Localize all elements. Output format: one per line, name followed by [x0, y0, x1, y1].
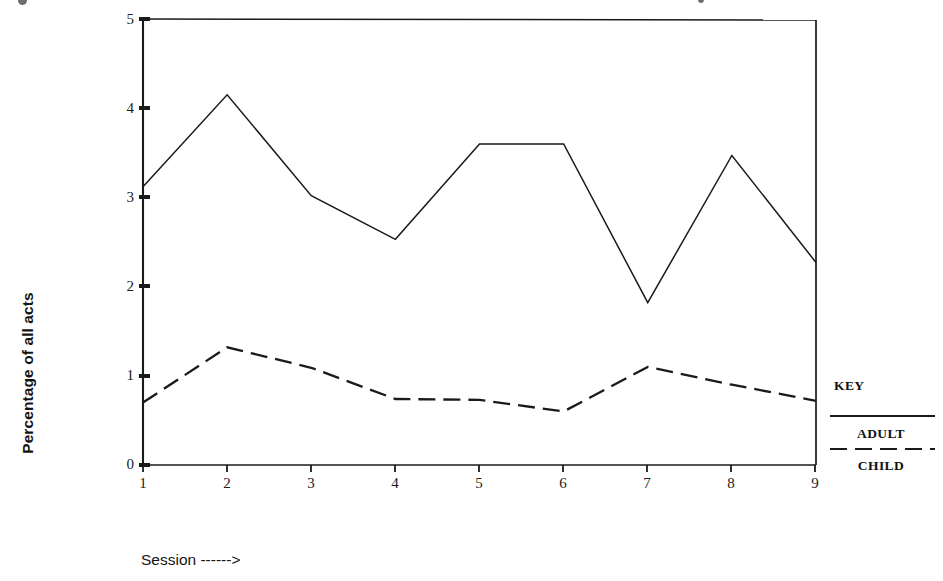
axis-frame: [143, 19, 816, 465]
series-line-child: [143, 347, 816, 411]
plot-top-border: [143, 19, 816, 20]
legend-title: KEY: [834, 378, 864, 394]
plot-area: [0, 0, 943, 581]
legend: KEY ADULT CHILD: [826, 370, 943, 482]
x-axis-ticks: [143, 465, 815, 472]
chart-figure: Percentage of all acts Session ------> 5…: [0, 0, 943, 581]
legend-swatch-adult-solid-line: [830, 415, 935, 417]
legend-swatch-child-dashed-line: [830, 448, 935, 450]
legend-label-adult: ADULT: [826, 426, 936, 442]
series-line-adult: [143, 95, 816, 303]
legend-label-child: CHILD: [826, 458, 936, 474]
